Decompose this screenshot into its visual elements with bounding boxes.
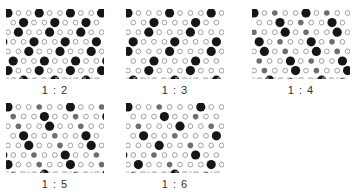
small-ring <box>136 11 141 16</box>
small-ring <box>204 153 209 158</box>
small-ring <box>68 49 73 54</box>
large-dot <box>97 66 104 75</box>
small-ring <box>47 49 52 54</box>
small-ring <box>183 133 188 138</box>
small-ring <box>52 39 57 44</box>
small-ring <box>136 49 141 54</box>
large-dot <box>6 9 13 18</box>
small-ring <box>47 11 52 16</box>
small-ring <box>78 162 83 167</box>
small-ring <box>298 39 303 44</box>
medium-dot <box>193 114 199 120</box>
small-ring <box>73 20 78 25</box>
small-ring <box>141 39 146 44</box>
large-dot <box>92 37 101 46</box>
small-ring <box>89 68 94 73</box>
small-ring <box>47 105 52 110</box>
large-dot <box>126 103 133 112</box>
small-ring <box>63 133 68 138</box>
medium-dot <box>172 133 178 139</box>
small-ring <box>293 49 298 54</box>
small-ring <box>283 68 288 73</box>
medium-dot <box>252 29 257 35</box>
panel-1-5: 1 : 5 <box>6 103 104 173</box>
small-ring <box>319 20 324 25</box>
small-ring <box>52 59 57 64</box>
panel-1-3: 1 : 3 <box>126 9 224 79</box>
small-ring <box>26 68 31 73</box>
small-ring <box>131 20 136 25</box>
small-ring <box>167 124 172 129</box>
small-ring <box>219 49 224 54</box>
small-ring <box>293 30 298 35</box>
small-ring <box>131 59 136 64</box>
medium-dot <box>16 123 22 129</box>
panel-label: 1 : 2 <box>6 84 104 96</box>
small-ring <box>6 30 10 35</box>
large-dot <box>186 28 195 37</box>
large-dot <box>134 160 143 169</box>
small-ring <box>293 11 298 16</box>
small-ring <box>21 59 26 64</box>
small-ring <box>11 153 16 158</box>
small-ring <box>126 143 130 148</box>
large-dot <box>45 122 54 131</box>
medium-dot <box>262 68 268 74</box>
small-ring <box>157 124 162 129</box>
small-ring <box>319 39 324 44</box>
small-ring <box>73 39 78 44</box>
medium-dot <box>308 58 314 64</box>
large-dot <box>102 170 104 173</box>
small-ring <box>58 105 63 110</box>
large-dot <box>19 131 28 140</box>
small-ring <box>131 114 136 119</box>
small-ring <box>204 133 209 138</box>
small-ring <box>126 162 130 167</box>
medium-dot <box>36 104 42 110</box>
small-ring <box>214 20 219 25</box>
small-ring <box>340 20 345 25</box>
large-dot <box>186 66 195 75</box>
large-dot <box>126 47 133 56</box>
large-dot <box>191 150 200 159</box>
small-ring <box>68 124 73 129</box>
large-dot <box>207 47 216 56</box>
medium-dot <box>10 114 16 120</box>
small-ring <box>37 124 42 129</box>
small-ring <box>136 143 141 148</box>
small-ring <box>58 162 63 167</box>
medium-dot <box>324 10 330 16</box>
small-ring <box>204 39 209 44</box>
large-dot <box>275 18 284 27</box>
small-ring <box>219 162 224 167</box>
large-dot <box>191 56 200 65</box>
small-ring <box>262 11 267 16</box>
small-ring <box>99 30 104 35</box>
small-ring <box>267 59 272 64</box>
small-ring <box>335 68 340 73</box>
dot-pattern <box>6 103 104 173</box>
small-ring <box>209 68 214 73</box>
small-ring <box>335 11 340 16</box>
medium-dot <box>282 49 288 55</box>
small-ring <box>272 30 277 35</box>
small-ring <box>126 30 130 35</box>
small-ring <box>141 114 146 119</box>
medium-dot <box>188 143 194 149</box>
large-dot <box>165 47 174 56</box>
small-ring <box>6 143 10 148</box>
small-ring <box>6 124 10 129</box>
small-ring <box>146 124 151 129</box>
small-ring <box>131 133 136 138</box>
dot-pattern <box>126 9 224 79</box>
medium-dot <box>314 68 320 74</box>
small-ring <box>162 133 167 138</box>
small-ring <box>157 162 162 167</box>
small-ring <box>345 49 350 54</box>
small-ring <box>178 49 183 54</box>
small-ring <box>47 162 52 167</box>
large-dot <box>333 28 342 37</box>
small-ring <box>58 30 63 35</box>
small-ring <box>78 11 83 16</box>
small-ring <box>58 11 63 16</box>
